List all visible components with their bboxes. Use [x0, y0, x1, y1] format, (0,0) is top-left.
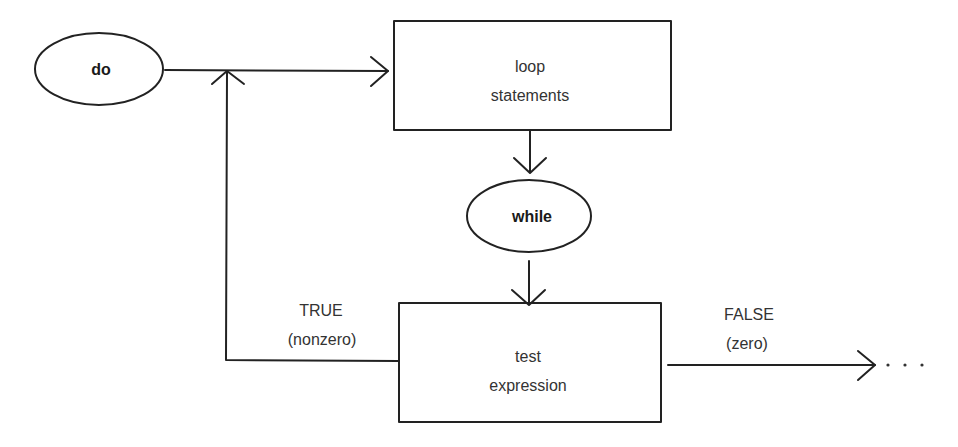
do-label: do: [91, 62, 111, 78]
test-label-line1: test: [515, 349, 541, 365]
true-label: TRUE: [299, 303, 343, 319]
continuation-dot: [886, 363, 889, 366]
while-label: while: [512, 209, 552, 225]
flowchart-canvas: [0, 0, 958, 447]
loop-statements-node: [394, 21, 671, 130]
continuation-dot: [920, 363, 923, 366]
nonzero-label: (nonzero): [288, 332, 356, 348]
zero-label: (zero): [726, 336, 768, 352]
loop-label-line1: loop: [515, 59, 545, 75]
arrowhead-up-icon: [212, 71, 244, 84]
continuation-dot: [903, 363, 906, 366]
test-label-line2: expression: [489, 378, 566, 394]
edge-do-to-loop: [165, 70, 388, 71]
loop-label-line2: statements: [491, 88, 569, 104]
false-label: FALSE: [724, 307, 774, 323]
